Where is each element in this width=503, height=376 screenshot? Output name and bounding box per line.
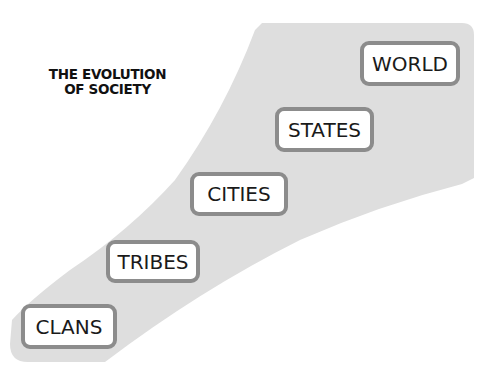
stage-states: STATES xyxy=(275,107,374,152)
stage-world: WORLD xyxy=(360,41,460,86)
stage-tribes: TRIBES xyxy=(106,240,200,283)
title-line-2: OF SOCIETY xyxy=(40,82,175,97)
title-line-1: THE EVOLUTION xyxy=(40,67,175,82)
stage-clans: CLANS xyxy=(21,304,117,349)
stage-cities: CITIES xyxy=(190,172,288,216)
diagram-title: THE EVOLUTION OF SOCIETY xyxy=(40,67,175,97)
